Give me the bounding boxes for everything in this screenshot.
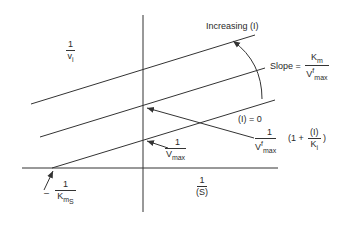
inhibition-factor-open: (1 + [288,134,304,143]
zero-inhibitor-label: (I) = 0 [238,115,262,124]
slope-label-fraction: Km Vfmax [305,53,329,81]
inhibited-intercept-label: 1 Vfmax [255,128,276,154]
x-axis-label: 1 (S) [196,176,208,197]
x-intercept-label: 1 KmS [55,180,76,205]
inhibition-factor-fraction: (I) Ki [308,128,321,151]
vmax-intercept-label: 1 Vmax [165,138,186,161]
x-intercept-sign: – [44,189,49,198]
y-axis-label: 1 vi [66,40,75,63]
plot-canvas [0,0,350,225]
slope-label-prefix: Slope = [270,62,301,71]
increasing-label: Increasing (I) [206,22,259,31]
line-mid-inhibitor [40,68,265,137]
inhibition-factor-close: ) [323,134,326,143]
